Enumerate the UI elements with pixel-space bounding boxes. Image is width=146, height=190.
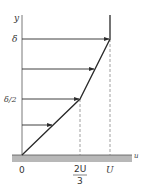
velocity-profile-diagram: y δ δ/2 u 0 2U 3 U [0, 0, 146, 190]
y-axis-label: y [13, 13, 20, 23]
half-delta-label: δ/2 [4, 95, 17, 104]
two-thirds-u-numerator: 2U [74, 164, 86, 174]
x-axis-label: u [134, 152, 139, 160]
origin-label: 0 [19, 165, 25, 175]
ground-surface [12, 155, 132, 162]
delta-label: δ [12, 34, 17, 44]
u-label: U [106, 165, 114, 175]
velocity-profile-line [22, 15, 110, 155]
two-thirds-u-denominator: 3 [77, 176, 83, 186]
